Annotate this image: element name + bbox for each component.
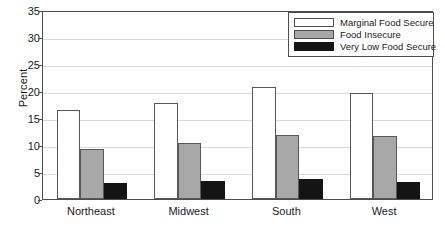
bar-northeast-marginal-food-secure [57,110,81,199]
bar-west-food-insecure [373,136,397,199]
y-tick-label: 5 [0,167,40,179]
y-tick-label: 25 [0,59,40,71]
y-tick-label: 15 [0,113,40,125]
legend-label: Very Low Food Secure [340,41,436,52]
x-label-northeast: Northeast [42,205,140,219]
y-tick-mark [38,200,42,201]
x-label-south: South [238,205,336,219]
bar-west-very-low-food-secure [397,182,421,199]
bar-midwest-food-insecure [178,143,202,199]
gridline [43,93,432,94]
bar-south-very-low-food-secure [299,179,323,199]
y-tick-label: 35 [0,5,40,17]
legend-item: Very Low Food Secure [294,41,429,52]
chart-legend: Marginal Food SecureFood InsecureVery Lo… [288,12,434,57]
bar-south-marginal-food-secure [252,87,276,199]
chart-title-cropped [0,0,445,7]
legend-swatch-icon [294,30,334,39]
y-tick-label: 10 [0,140,40,152]
x-label-midwest: Midwest [140,205,238,219]
x-label-west: West [335,205,433,219]
y-tick-label: 20 [0,86,40,98]
gridline [43,120,432,121]
bar-midwest-very-low-food-secure [201,181,225,199]
legend-swatch-icon [294,42,334,51]
bar-west-marginal-food-secure [350,93,374,199]
bar-northeast-very-low-food-secure [104,183,128,199]
legend-swatch-icon [294,18,334,27]
legend-label: Marginal Food Secure [340,17,433,28]
legend-label: Food Insecure [340,29,401,40]
bar-midwest-marginal-food-secure [154,103,178,199]
bar-northeast-food-insecure [80,149,104,199]
y-tick-label: 0 [0,194,40,206]
bar-chart-figure: Percent 05101520253035 NortheastMidwestS… [0,0,445,227]
y-tick-label: 30 [0,32,40,44]
legend-item: Food Insecure [294,29,429,40]
gridline [43,66,432,67]
bar-south-food-insecure [276,135,300,199]
legend-item: Marginal Food Secure [294,17,429,28]
